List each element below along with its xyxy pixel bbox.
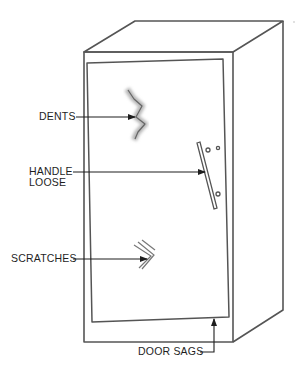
label-handle-line2: LOOSE bbox=[29, 177, 73, 188]
label-handle-loose: HANDLE LOOSE bbox=[29, 166, 73, 188]
door-outline bbox=[87, 59, 229, 322]
label-door-sags: DOOR SAGS bbox=[138, 346, 203, 357]
scratch-marks-icon bbox=[134, 240, 155, 269]
dent-mark-icon bbox=[127, 89, 145, 140]
cabinet-side-face bbox=[233, 21, 283, 342]
callout-arrows bbox=[73, 117, 214, 352]
cabinet-top-face bbox=[84, 21, 283, 52]
label-scratches: SCRATCHES bbox=[11, 253, 77, 264]
door-handle-icon bbox=[197, 142, 220, 209]
cabinet-body bbox=[84, 21, 283, 342]
speck bbox=[293, 21, 295, 23]
label-dents: DENTS bbox=[39, 111, 76, 122]
diagram-canvas: DENTS HANDLE LOOSE SCRATCHES DOOR SAGS bbox=[0, 0, 300, 372]
